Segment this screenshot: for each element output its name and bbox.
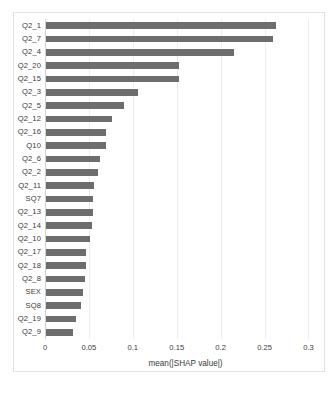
bar	[46, 276, 85, 282]
bar	[46, 329, 73, 335]
bar-category-label: Q2_3	[22, 85, 41, 98]
bar	[46, 142, 106, 148]
bar	[46, 196, 93, 202]
bar	[46, 182, 94, 188]
bar	[46, 222, 92, 228]
bar-category-label: Q2_5	[22, 99, 41, 112]
bar	[46, 62, 179, 68]
bar-row: Q2_12	[45, 112, 326, 125]
bar-row: Q2_15	[45, 72, 326, 85]
bar-row: Q2_19	[45, 312, 326, 325]
bar	[46, 102, 124, 108]
bar-category-label: SQ8	[26, 299, 42, 312]
bar	[46, 316, 76, 322]
x-tick-label: 0.1	[128, 343, 139, 352]
bar-category-label: Q2_7	[22, 32, 41, 45]
bar-row: SQ8	[45, 299, 326, 312]
bar-row: Q2_14	[45, 219, 326, 232]
x-tick-label: 0.3	[303, 343, 314, 352]
bar-row: Q2_11	[45, 179, 326, 192]
chart-frame: Q2_1Q2_7Q2_4Q2_20Q2_15Q2_3Q2_5Q2_12Q2_16…	[13, 12, 325, 372]
bar	[46, 36, 273, 42]
figure: Q2_1Q2_7Q2_4Q2_20Q2_15Q2_3Q2_5Q2_12Q2_16…	[0, 0, 336, 403]
bar-row: Q2_13	[45, 206, 326, 219]
bar-row: Q2_4	[45, 46, 326, 59]
x-tick-label: 0.05	[82, 343, 97, 352]
plot-area: Q2_1Q2_7Q2_4Q2_20Q2_15Q2_3Q2_5Q2_12Q2_16…	[45, 19, 326, 339]
bar	[46, 302, 81, 308]
bar	[46, 156, 100, 162]
bar	[46, 116, 112, 122]
bar-row: SEX	[45, 286, 326, 299]
bar-row: Q2_2	[45, 166, 326, 179]
bar-row: Q2_18	[45, 259, 326, 272]
bar-row: Q10	[45, 139, 326, 152]
bar-category-label: Q2_18	[18, 259, 41, 272]
bar-category-label: Q2_8	[22, 272, 41, 285]
bar-category-label: Q2_4	[22, 45, 41, 58]
bar	[46, 169, 98, 175]
bar-category-label: Q2_1	[22, 19, 41, 32]
bar	[46, 236, 90, 242]
x-tick-label: 0	[43, 343, 47, 352]
x-axis-label: mean(|SHAP value|)	[45, 359, 326, 368]
bar	[46, 76, 179, 82]
x-axis-ticks: 00.050.10.150.20.250.3	[45, 343, 326, 357]
bar-category-label: Q2_12	[18, 112, 41, 125]
bar-category-label: Q2_16	[18, 125, 41, 138]
bar-category-label: Q10	[26, 139, 41, 152]
bar-category-label: Q2_17	[18, 245, 41, 258]
bar-category-label: Q2_11	[18, 179, 41, 192]
bar-row: Q2_16	[45, 126, 326, 139]
bar	[46, 89, 138, 95]
bar-category-label: Q2_20	[18, 59, 41, 72]
x-tick-label: 0.2	[215, 343, 226, 352]
bar-row: Q2_1	[45, 19, 326, 32]
bar	[46, 209, 93, 215]
bar-category-label: Q2_14	[18, 219, 41, 232]
bar-category-label: Q2_19	[18, 312, 41, 325]
bar	[46, 249, 86, 255]
bar-category-label: Q2_10	[18, 232, 41, 245]
bar	[46, 49, 234, 55]
bar-row: Q2_17	[45, 246, 326, 259]
bar-row: Q2_7	[45, 32, 326, 45]
bar-category-label: Q2_6	[22, 152, 41, 165]
bar-row: Q2_5	[45, 99, 326, 112]
bar-category-label: SEX	[26, 285, 42, 298]
bar-row: Q2_8	[45, 272, 326, 285]
bar	[46, 289, 83, 295]
bar-category-label: SQ7	[26, 192, 42, 205]
x-tick-label: 0.15	[169, 343, 184, 352]
bar	[46, 22, 276, 28]
bar	[46, 262, 86, 268]
x-tick-label: 0.25	[257, 343, 272, 352]
bar-category-label: Q2_9	[22, 325, 41, 338]
bar	[46, 129, 106, 135]
bar-row: SQ7	[45, 192, 326, 205]
bar-category-label: Q2_15	[18, 72, 41, 85]
bar-category-label: Q2_2	[22, 165, 41, 178]
bar-category-label: Q2_13	[18, 205, 41, 218]
bar-row: Q2_20	[45, 59, 326, 72]
bar-row: Q2_9	[45, 326, 326, 339]
bar-row: Q2_10	[45, 232, 326, 245]
bar-row: Q2_6	[45, 152, 326, 165]
bar-row: Q2_3	[45, 86, 326, 99]
